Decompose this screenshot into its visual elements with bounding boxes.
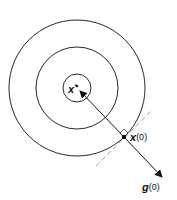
optimum-label: x*	[67, 82, 77, 95]
right-angle-marker	[120, 129, 128, 133]
point-x0-label: x(0)	[129, 131, 147, 143]
point-x0-marker	[122, 135, 126, 139]
gradient-label: g(0)	[141, 181, 160, 193]
contour-diagram: x* x(0) g(0)	[0, 0, 177, 200]
direction-to-optimum-arrow	[80, 91, 124, 137]
gradient-arrow	[124, 137, 162, 177]
